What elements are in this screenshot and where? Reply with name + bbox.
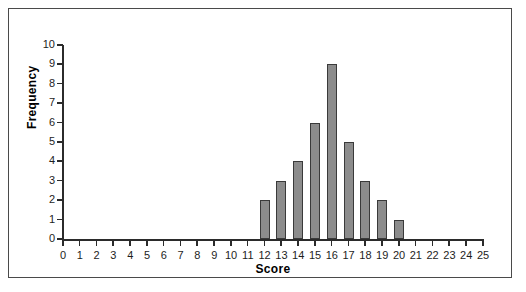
- x-tick-mark: [96, 240, 98, 246]
- y-tick-mark: [57, 180, 63, 182]
- y-tick-mark: [57, 219, 63, 221]
- y-axis-line: [62, 45, 64, 240]
- x-tick-mark: [482, 240, 484, 246]
- y-tick-label: 9: [33, 56, 55, 71]
- y-tick-mark: [57, 63, 63, 65]
- y-tick-mark: [57, 199, 63, 201]
- x-axis-line: [62, 239, 484, 241]
- bar: [344, 142, 354, 239]
- x-tick-mark: [297, 240, 299, 246]
- x-tick-mark: [314, 240, 316, 246]
- x-tick-mark: [146, 240, 148, 246]
- bar: [360, 181, 370, 239]
- x-axis-title: Score: [63, 262, 483, 276]
- plot-area: 012345678910 012345678910111213141516171…: [63, 45, 483, 239]
- y-tick-mark: [57, 102, 63, 104]
- x-tick-mark: [381, 240, 383, 246]
- y-tick-label: 8: [33, 76, 55, 91]
- y-tick-label: 2: [33, 192, 55, 207]
- y-tick-label: 6: [33, 115, 55, 130]
- bar: [276, 181, 286, 239]
- bar: [394, 220, 404, 239]
- x-tick-mark: [230, 240, 232, 246]
- x-tick-mark: [280, 240, 282, 246]
- y-tick-mark: [57, 141, 63, 143]
- y-tick-label: 1: [33, 212, 55, 227]
- x-tick-mark: [331, 240, 333, 246]
- x-tick-mark: [348, 240, 350, 246]
- y-tick-mark: [57, 83, 63, 85]
- bar: [310, 123, 320, 239]
- x-tick-mark: [62, 240, 64, 246]
- x-tick-mark: [264, 240, 266, 246]
- y-tick-mark: [57, 44, 63, 46]
- x-tick-mark: [79, 240, 81, 246]
- x-tick-mark: [432, 240, 434, 246]
- x-tick-mark: [163, 240, 165, 246]
- x-tick-mark: [213, 240, 215, 246]
- y-tick-label: 3: [33, 173, 55, 188]
- y-tick-label: 7: [33, 95, 55, 110]
- bar: [327, 64, 337, 239]
- x-tick-mark: [364, 240, 366, 246]
- x-tick-mark: [448, 240, 450, 246]
- x-tick-mark: [415, 240, 417, 246]
- y-tick-label: 0: [33, 231, 55, 246]
- x-tick-mark: [112, 240, 114, 246]
- x-tick-mark: [398, 240, 400, 246]
- x-tick-mark: [465, 240, 467, 246]
- y-tick-label: 10: [33, 37, 55, 52]
- x-tick-mark: [196, 240, 198, 246]
- x-tick-mark: [180, 240, 182, 246]
- x-tick-mark: [129, 240, 131, 246]
- y-tick-label: 5: [33, 134, 55, 149]
- bar: [260, 200, 270, 239]
- y-tick-mark: [57, 122, 63, 124]
- bar: [293, 161, 303, 239]
- y-tick-mark: [57, 160, 63, 162]
- x-tick-mark: [247, 240, 249, 246]
- bar: [377, 200, 387, 239]
- figure-frame: Frequency 012345678910 01234567891011121…: [8, 8, 512, 278]
- x-tick-label: 25: [471, 248, 495, 262]
- y-tick-label: 4: [33, 153, 55, 168]
